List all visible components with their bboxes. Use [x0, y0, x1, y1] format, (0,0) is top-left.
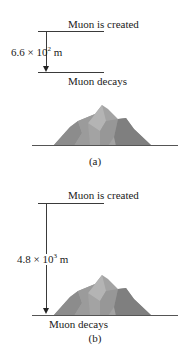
- ground-line: [32, 315, 178, 316]
- decay-line: [38, 72, 104, 73]
- muon-decays-label: Muon decays: [49, 319, 108, 330]
- caption-a: (a): [0, 155, 190, 167]
- creation-line: [38, 31, 104, 32]
- down-arrow-icon: [43, 308, 49, 314]
- mountain-icon: [50, 103, 155, 146]
- muon-created-label: Muon is created: [68, 190, 139, 201]
- panel-b: Muon is created 4.8 × 103 m Muon decays …: [0, 170, 190, 347]
- mountain-icon: [50, 273, 155, 316]
- distance-label: 6.6 × 102 m: [11, 47, 62, 58]
- panel-a: Muon is created 6.6 × 102 m Muon decays …: [0, 0, 190, 175]
- muon-decays-label: Muon decays: [68, 76, 127, 87]
- distance-label: 4.8 × 103 m: [16, 254, 69, 265]
- muon-created-label: Muon is created: [68, 19, 139, 30]
- caption-b: (b): [0, 332, 190, 344]
- ground-line: [32, 145, 178, 146]
- creation-line: [38, 203, 104, 204]
